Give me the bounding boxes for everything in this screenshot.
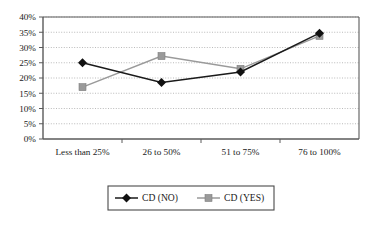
y-tick-label: 30%	[19, 43, 36, 53]
y-axis-tick-labels: 40% 35% 30% 25% 20% 15% 10% 5% 0%	[19, 12, 36, 144]
line-chart: 40% 35% 30% 25% 20% 15% 10% 5% 0%	[0, 0, 373, 228]
y-tick-label: 15%	[19, 89, 36, 99]
x-category-label: 26 to 50%	[143, 147, 181, 157]
y-tick-label: 5%	[24, 119, 37, 129]
chart-canvas: 40% 35% 30% 25% 20% 15% 10% 5% 0%	[0, 0, 373, 228]
series-cd-yes-marker	[158, 53, 165, 60]
x-category-label: Less than 25%	[55, 147, 109, 157]
legend-label-cd-yes: CD (YES)	[224, 192, 264, 204]
y-tick-label: 10%	[19, 104, 36, 114]
series-cd-yes-marker	[79, 84, 86, 91]
legend-label-cd-no: CD (NO)	[142, 192, 178, 204]
y-tick-label: 35%	[19, 28, 36, 38]
chart-legend: CD (NO) CD (YES)	[108, 186, 274, 210]
x-category-label: 76 to 100%	[298, 147, 341, 157]
y-tick-label: 40%	[19, 12, 36, 22]
y-tick-label: 25%	[19, 58, 36, 68]
y-tick-label: 0%	[24, 134, 37, 144]
y-tick-label: 20%	[19, 73, 36, 83]
square-marker-icon	[205, 195, 212, 202]
x-category-label: 51 to 75%	[222, 147, 260, 157]
x-axis-category-labels: Less than 25% 26 to 50% 51 to 75% 76 to …	[55, 147, 341, 157]
